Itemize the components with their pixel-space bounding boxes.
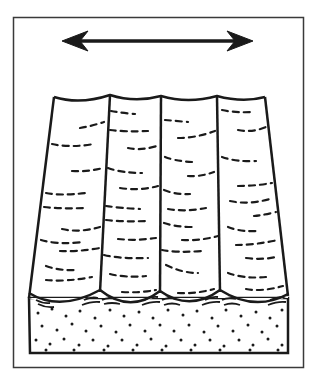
- diagram-figure: [0, 0, 317, 381]
- sand-base: [29, 298, 288, 353]
- block-diagram-svg: [0, 0, 317, 381]
